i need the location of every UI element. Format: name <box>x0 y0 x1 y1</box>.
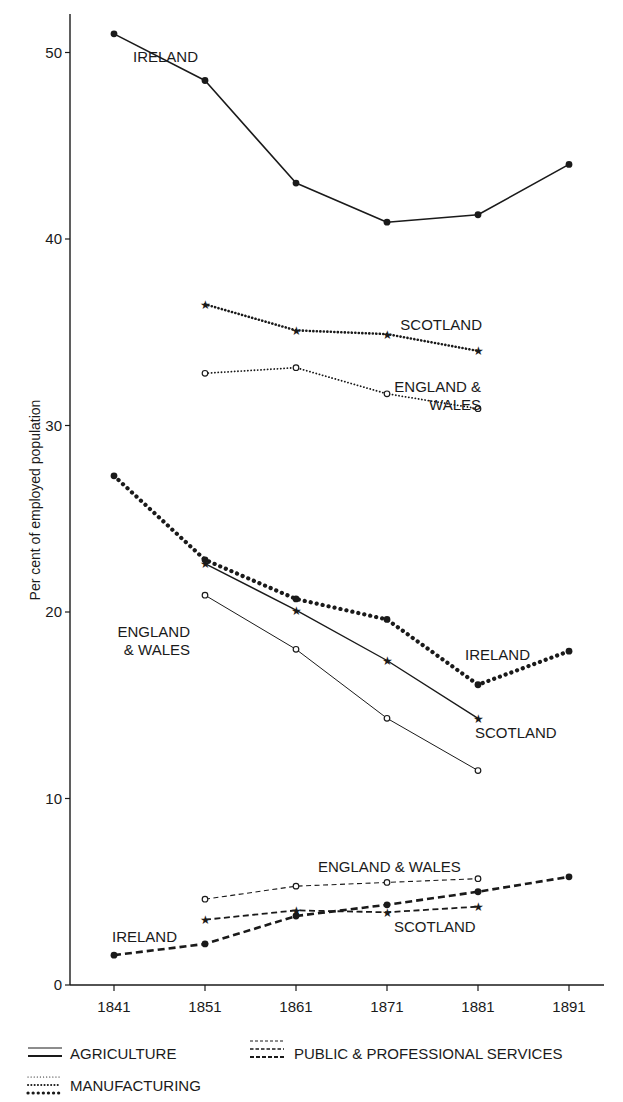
legend-label-services: PUBLIC & PROFESSIONAL SERVICES <box>294 1045 562 1062</box>
dot-marker-icon <box>202 77 209 84</box>
legend: AGRICULTUREPUBLIC & PROFESSIONAL SERVICE… <box>28 1041 562 1094</box>
dot-marker-icon <box>293 596 300 603</box>
open-circle-marker-icon <box>202 592 208 598</box>
x-tick-label: 1881 <box>461 998 494 1015</box>
open-circle-marker-icon <box>475 768 481 774</box>
dot-marker-icon <box>384 616 391 623</box>
series-annotation: SCOTLAND <box>394 918 476 935</box>
series-annotation: ENGLAND & <box>394 378 481 395</box>
series-annotation: IRELAND <box>112 928 177 945</box>
series-annotation: IRELAND <box>133 48 198 65</box>
x-tick-label: 1841 <box>97 998 130 1015</box>
dot-marker-icon <box>111 952 118 959</box>
series-annotation: SCOTLAND <box>475 724 557 741</box>
y-tick-label: 50 <box>45 44 62 61</box>
dot-marker-icon <box>293 180 300 187</box>
dot-marker-icon <box>111 30 118 37</box>
star-marker-icon: ★ <box>291 604 302 618</box>
open-circle-marker-icon <box>202 896 208 902</box>
star-marker-icon: ★ <box>473 344 484 358</box>
series-line <box>205 564 478 719</box>
dot-marker-icon <box>202 556 209 563</box>
dot-marker-icon <box>202 941 209 948</box>
services-legend-swatch-icon <box>250 1041 284 1057</box>
dot-marker-icon <box>566 161 573 168</box>
star-marker-icon: ★ <box>200 913 211 927</box>
line-chart: 01020304050184118511861187118811891Per c… <box>0 0 623 1102</box>
star-marker-icon: ★ <box>473 900 484 914</box>
series-annotation: SCOTLAND <box>400 316 482 333</box>
series-annotation: & WALES <box>124 641 190 658</box>
series-layer: ★★★★★★★★★★★★ <box>111 30 573 958</box>
x-tick-label: 1871 <box>370 998 403 1015</box>
y-tick-label: 20 <box>45 603 62 620</box>
open-circle-marker-icon <box>293 647 299 653</box>
dot-marker-icon <box>293 913 300 920</box>
y-tick-label: 10 <box>45 790 62 807</box>
open-circle-marker-icon <box>202 370 208 376</box>
x-tick-label: 1891 <box>552 998 585 1015</box>
star-marker-icon: ★ <box>200 298 211 312</box>
legend-label-manufacturing: MANUFACTURING <box>70 1077 201 1094</box>
dot-marker-icon <box>111 472 118 479</box>
open-circle-marker-icon <box>293 883 299 889</box>
dot-marker-icon <box>475 681 482 688</box>
star-marker-icon: ★ <box>382 654 393 668</box>
series-annotation: IRELAND <box>465 646 530 663</box>
star-marker-icon: ★ <box>291 324 302 338</box>
series-annotations: IRELANDSCOTLANDENGLAND &WALESENGLAND& WA… <box>112 48 557 945</box>
y-tick-label: 30 <box>45 417 62 434</box>
series-line <box>205 879 478 900</box>
series-agriculture-england-wales <box>202 592 481 773</box>
series-annotation: ENGLAND <box>117 623 190 640</box>
manufacturing-legend-swatch-icon <box>28 1077 60 1093</box>
legend-label-agriculture: AGRICULTURE <box>70 1045 176 1062</box>
dot-marker-icon <box>475 888 482 895</box>
open-circle-marker-icon <box>384 880 390 886</box>
axes: 01020304050184118511861187118811891Per c… <box>27 14 604 1015</box>
series-agriculture-scotland: ★★★★ <box>200 557 484 726</box>
series-line <box>205 595 478 770</box>
dot-marker-icon <box>384 219 391 226</box>
y-tick-label: 0 <box>54 976 62 993</box>
series-annotation: ENGLAND & WALES <box>318 858 461 875</box>
dot-marker-icon <box>384 901 391 908</box>
series-annotation: WALES <box>429 396 481 413</box>
dot-marker-icon <box>566 648 573 655</box>
open-circle-marker-icon <box>384 391 390 397</box>
dot-marker-icon <box>475 211 482 218</box>
agriculture-legend-swatch-icon <box>28 1048 62 1056</box>
x-tick-label: 1861 <box>279 998 312 1015</box>
star-marker-icon: ★ <box>382 328 393 342</box>
y-axis-label: Per cent of employed population <box>27 400 43 601</box>
series-line <box>114 877 569 955</box>
open-circle-marker-icon <box>384 716 390 722</box>
open-circle-marker-icon <box>475 876 481 882</box>
dot-marker-icon <box>566 873 573 880</box>
series-services-ireland <box>111 873 573 958</box>
x-tick-label: 1851 <box>188 998 221 1015</box>
y-tick-label: 40 <box>45 230 62 247</box>
open-circle-marker-icon <box>293 365 299 371</box>
